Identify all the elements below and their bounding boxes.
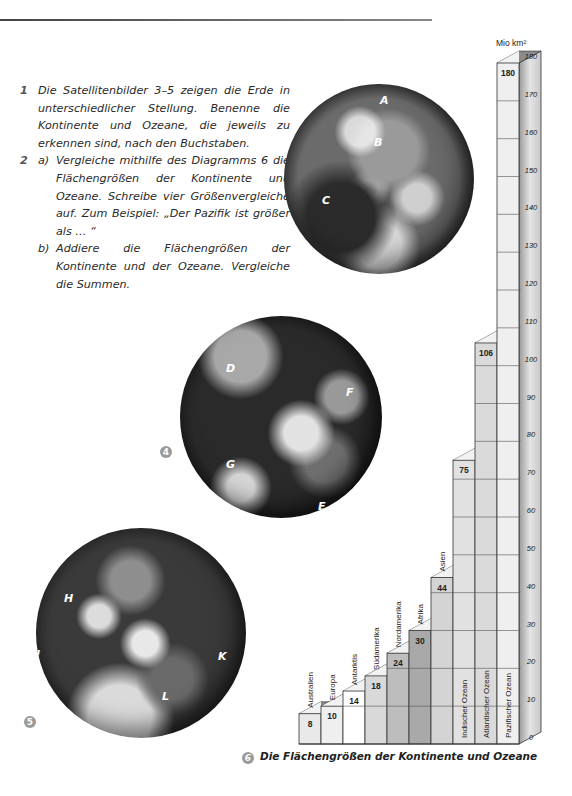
y-tick-label: 100 xyxy=(525,355,538,364)
bar-value-label: 18 xyxy=(371,681,381,691)
area-bar-chart: 8Australien10Europa14Antarktis18Südameri… xyxy=(0,0,572,796)
y-tick-label: 20 xyxy=(526,657,536,666)
bar-value-label: 10 xyxy=(327,711,337,721)
y-tick-label: 80 xyxy=(527,430,536,439)
caption-text: Die Flächengrößen der Kontinente und Oze… xyxy=(260,750,537,762)
bar-value-label: 180 xyxy=(501,68,515,78)
y-tick-label: 150 xyxy=(525,166,538,175)
bar-value-label: 106 xyxy=(479,348,493,358)
bar-category-label: Europa xyxy=(328,674,337,700)
y-tick-label: 180 xyxy=(525,52,538,61)
y-tick-label: 30 xyxy=(527,620,536,629)
y-tick-label: 70 xyxy=(527,468,536,477)
figure-6-caption: 6Die Flächengrößen der Kontinente und Oz… xyxy=(242,750,537,764)
y-tick-label: 90 xyxy=(527,393,536,402)
y-tick-label: 60 xyxy=(527,506,536,515)
y-tick-label: 170 xyxy=(525,90,538,99)
bar-category-label: Asien xyxy=(438,552,447,572)
y-tick-label: 120 xyxy=(525,279,538,288)
y-tick-label: 140 xyxy=(525,203,538,212)
y-tick-label: 110 xyxy=(525,317,538,326)
bar-category-label: Afrika xyxy=(416,604,425,625)
bar-category-label: Südamerika xyxy=(372,627,381,670)
bar-category-label: Antarktis xyxy=(350,654,359,685)
y-tick-label: 10 xyxy=(527,695,536,704)
bar-category-label: Australien xyxy=(306,672,315,708)
bar-value-label: 30 xyxy=(415,636,425,646)
bar-value-label: 44 xyxy=(437,583,447,593)
bar-value-label: 8 xyxy=(308,719,313,729)
y-tick-label: 130 xyxy=(525,241,538,250)
bar-value-label: 24 xyxy=(393,658,403,668)
y-tick-label: 50 xyxy=(527,544,536,553)
bar-value-label: 75 xyxy=(459,465,469,475)
bar-category-label: Nordamerika xyxy=(394,601,403,647)
bar-category-label: Atlantischer Ozean xyxy=(482,670,491,738)
y-tick-label: 40 xyxy=(527,582,536,591)
bar-category-label: Pazifischer Ozean xyxy=(504,673,513,738)
bar-category-label: Indischer Ozean xyxy=(460,680,469,738)
y-tick-label: 160 xyxy=(525,128,538,137)
figure-number-6: 6 xyxy=(242,752,254,764)
bar-value-label: 14 xyxy=(349,696,359,706)
